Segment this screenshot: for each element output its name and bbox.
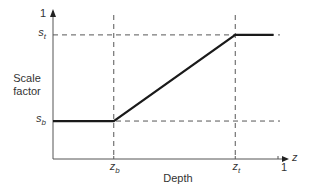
- y-tick-label-1: st: [38, 26, 47, 41]
- x-tick-label-0-subscript: b: [115, 166, 120, 175]
- guide-lines: [53, 15, 280, 159]
- series-layer: [53, 35, 274, 121]
- x-tick-label-2: 1: [281, 161, 287, 173]
- x-axis-label: Depth: [163, 172, 192, 184]
- x-tick-label-1-subscript: t: [238, 166, 241, 175]
- labels-layer: Scale factor Depth zbzt1sbst1z: [13, 7, 298, 184]
- y-axis-label-line-2: factor: [13, 85, 41, 97]
- y-tick-label-1-subscript: t: [44, 32, 47, 41]
- y-tick-label-2: 1: [40, 7, 46, 19]
- x-axis-symbol: z: [291, 151, 298, 163]
- y-axis-label-line-1: Scale: [13, 72, 41, 84]
- y-axis-arrow-icon: [50, 9, 56, 17]
- axes: [50, 9, 289, 162]
- y-tick-label-0-subscript: b: [42, 118, 47, 127]
- series-line-0: [53, 35, 274, 121]
- y-tick-label-0: sb: [36, 112, 47, 127]
- x-tick-label-0: zb: [109, 160, 121, 175]
- x-tick-label-1: zt: [231, 160, 241, 175]
- chart: Scale factor Depth zbzt1sbst1z: [0, 0, 310, 187]
